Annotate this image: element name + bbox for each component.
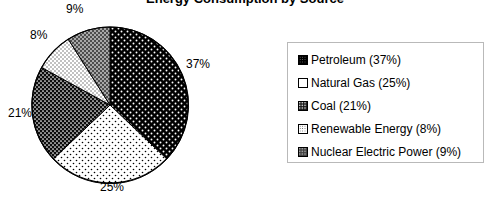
slice-label-coal: 21%	[8, 106, 32, 120]
legend-list: Petroleum (37%) Natural Gas (25%) Coal (…	[298, 48, 481, 163]
legend-label-renewable-energy: Renewable Energy (8%)	[311, 123, 441, 135]
legend-label-nuclear-electric-power: Nuclear Electric Power (9%)	[311, 146, 461, 158]
slice-label-natural-gas: 25%	[100, 180, 124, 194]
legend-item-nuclear-electric-power: Nuclear Electric Power (9%)	[298, 140, 481, 163]
legend-swatch-renewable-energy-icon	[298, 124, 308, 134]
slice-label-renewable-energy: 8%	[30, 28, 47, 42]
slice-label-petroleum: 37%	[186, 57, 210, 71]
slice-label-nuclear-electric-power: 9%	[66, 2, 83, 16]
pie-chart-figure: Energy Consumption by Source	[0, 0, 488, 199]
legend-item-petroleum: Petroleum (37%)	[298, 48, 481, 71]
legend-swatch-natural-gas-icon	[298, 78, 308, 88]
legend-label-petroleum: Petroleum (37%)	[311, 54, 401, 66]
legend-label-natural-gas: Natural Gas (25%)	[311, 77, 410, 89]
legend-label-coal: Coal (21%)	[311, 100, 371, 112]
legend-item-natural-gas: Natural Gas (25%)	[298, 71, 481, 94]
legend-item-renewable-energy: Renewable Energy (8%)	[298, 117, 481, 140]
legend-swatch-coal-icon	[298, 101, 308, 111]
legend-item-coal: Coal (21%)	[298, 94, 481, 117]
chart-legend: Petroleum (37%) Natural Gas (25%) Coal (…	[287, 42, 484, 163]
legend-swatch-petroleum-icon	[298, 55, 308, 65]
pie-chart-graphic: 37% 25% 21% 8% 9%	[0, 0, 250, 199]
legend-swatch-nuclear-electric-power-icon	[298, 147, 308, 157]
